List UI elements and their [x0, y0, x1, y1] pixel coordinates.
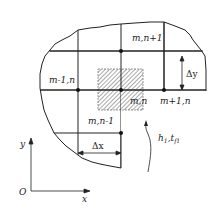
label-right: m+1,n	[160, 96, 191, 106]
origin-label: O	[19, 187, 27, 197]
node-top-dot	[119, 49, 123, 53]
dy-dimension	[180, 56, 184, 90]
dx-dimension	[78, 151, 121, 155]
label-left: m-1,n	[49, 75, 75, 85]
axis-y-label: y	[19, 139, 26, 149]
finite-difference-grid-diagram: m,n+1 m-1,n m,n m+1,n m,n-1 Δy Δx h1,tf1…	[0, 0, 216, 211]
label-bottom: m,n-1	[88, 116, 114, 126]
dy-label: Δy	[186, 69, 198, 79]
convection-arrow	[144, 120, 151, 172]
t-subscript: f1	[173, 137, 180, 145]
node-center-dot	[119, 88, 123, 92]
label-center: m,n	[130, 96, 147, 106]
node-right-dot	[162, 88, 166, 92]
node-left-dot	[76, 88, 80, 92]
coordinate-axes	[29, 138, 90, 193]
dx-label: Δx	[92, 141, 104, 151]
axis-x-label: x	[82, 194, 87, 204]
boundary-label: h1,tf1	[158, 133, 180, 145]
label-top: m,n+1	[132, 33, 162, 43]
node-bottom-dot	[119, 131, 123, 135]
